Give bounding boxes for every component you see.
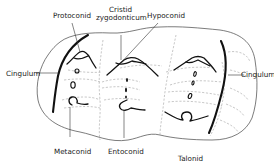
label-cristid-line2: zygodonticum [96, 14, 147, 22]
label-entoconid: Entoconid [108, 148, 144, 156]
molar-diagram [0, 0, 274, 168]
label-hypoconid: Hypoconid [147, 12, 185, 20]
dashed-lines [62, 35, 250, 140]
pit [125, 95, 127, 98]
label-cingulum-left: Cingulum [6, 70, 40, 78]
pit [125, 88, 127, 92]
right-cusp [174, 57, 216, 73]
pit [192, 81, 195, 85]
label-protoconid: Protoconid [53, 12, 91, 20]
pit [71, 82, 75, 88]
metaconid-cusp [69, 97, 88, 105]
cingulum-right-ridge [209, 41, 226, 133]
pit [75, 69, 79, 73]
cingulum-left-ridge [53, 35, 88, 112]
pit [193, 71, 197, 76]
entoconid-cusp [119, 100, 145, 110]
label-cingulum-right: Cingulum [241, 71, 274, 79]
talonid-cusp [165, 112, 208, 121]
pit [126, 78, 128, 82]
label-metaconid: Metaconid [54, 148, 91, 156]
label-talonid: Talonid [178, 155, 203, 163]
pit [188, 93, 193, 99]
protoconid-cusp [67, 51, 96, 68]
hypoconid-cusp [107, 58, 158, 76]
